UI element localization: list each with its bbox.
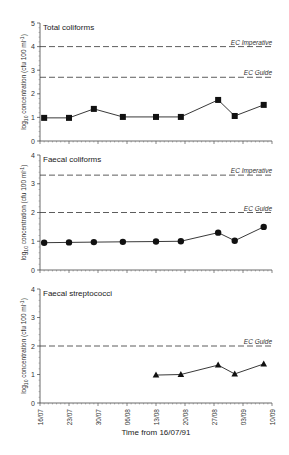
y-tick-label: 0 <box>31 267 35 274</box>
circle-marker <box>66 239 72 245</box>
square-marker <box>153 114 159 120</box>
panel-title: Faecal streptococci <box>43 289 112 298</box>
x-axis-label: Time from 16/07/91 <box>121 428 191 437</box>
circle-marker <box>215 229 221 235</box>
square-marker <box>41 115 47 121</box>
panel-2: 01234Faecal coliformslog10 concentration… <box>19 152 272 274</box>
reference-line-label: EC Guide <box>244 69 273 76</box>
y-axis-label: log10 concentration (cfu 100 ml-1) <box>19 298 29 394</box>
y-tick-label: 2 <box>31 90 35 97</box>
circle-marker <box>178 238 184 244</box>
y-tick-label: 0 <box>31 138 35 145</box>
x-tick-label: 27/08 <box>211 409 218 426</box>
reference-line-label: EC Imperative <box>231 39 273 47</box>
chart-figure: 012345Total coliformslog10 concentration… <box>0 0 289 455</box>
y-tick-label: 4 <box>31 43 35 50</box>
x-tick-label: 20/08 <box>182 409 189 426</box>
y-tick-label: 2 <box>31 209 35 216</box>
x-tick-label: 06/08 <box>124 409 131 426</box>
triangle-marker <box>260 360 267 366</box>
circle-marker <box>232 237 238 243</box>
circle-marker <box>41 239 47 245</box>
square-marker <box>232 113 238 119</box>
circle-marker <box>153 238 159 244</box>
square-marker <box>261 102 267 108</box>
y-tick-label: 3 <box>31 180 35 187</box>
y-tick-label: 1 <box>31 371 35 378</box>
panel-title: Faecal coliforms <box>43 155 101 164</box>
x-tick-label: 16/07 <box>37 409 44 426</box>
x-tick-label: 30/07 <box>95 409 102 426</box>
panel-title: Total coliforms <box>43 23 94 32</box>
y-tick-label: 0 <box>31 400 35 407</box>
square-marker <box>178 114 184 120</box>
square-marker <box>215 97 221 103</box>
x-tick-label: 23/07 <box>66 409 73 426</box>
y-tick-label: 1 <box>31 114 35 121</box>
panel-1: 012345Total coliformslog10 concentration… <box>19 20 272 145</box>
y-tick-label: 4 <box>31 286 35 293</box>
square-marker <box>66 115 72 121</box>
reference-line-label: EC Guide <box>244 205 273 212</box>
y-tick-label: 3 <box>31 314 35 321</box>
y-axis-label: log10 concentration (cfu 100 ml-1) <box>19 165 29 261</box>
y-tick-label: 3 <box>31 67 35 74</box>
circle-marker <box>261 224 267 230</box>
x-tick-label: 10/09 <box>269 409 276 426</box>
x-tick-label: 03/09 <box>240 409 247 426</box>
circle-marker <box>91 239 97 245</box>
square-marker <box>120 114 126 120</box>
square-marker <box>91 106 97 112</box>
circle-marker <box>120 239 126 245</box>
y-tick-label: 5 <box>31 20 35 27</box>
panel-3: 01234Faecal streptococcilog10 concentrat… <box>19 286 272 407</box>
reference-line-label: EC Imperative <box>231 167 273 175</box>
y-tick-label: 1 <box>31 238 35 245</box>
data-series-line <box>156 364 264 375</box>
triangle-marker <box>215 362 222 368</box>
y-tick-label: 4 <box>31 152 35 159</box>
y-axis-label: log10 concentration (cfu 100 ml-1) <box>19 34 29 130</box>
reference-line-label: EC Guide <box>244 338 273 345</box>
y-tick-label: 2 <box>31 343 35 350</box>
x-tick-label: 13/08 <box>153 409 160 426</box>
